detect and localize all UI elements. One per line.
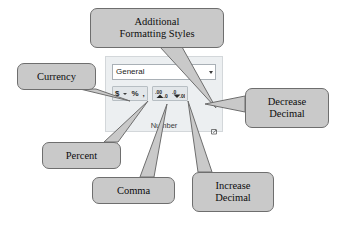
callout-line-2: Decimal <box>215 192 251 204</box>
percent-style-button[interactable]: % <box>129 87 140 100</box>
number-format-button-strip: $ % , .00 .0 <box>112 86 188 101</box>
decrease-decimal-button[interactable]: .0 .00 <box>170 87 187 100</box>
ribbon-group-label: Number <box>106 122 222 130</box>
svg-text:.0: .0 <box>172 89 176 95</box>
callout-line-1: Additional <box>135 16 180 28</box>
callout-percent: Percent <box>42 142 121 169</box>
callout-comma: Comma <box>92 177 175 204</box>
comma-style-button[interactable]: , <box>141 87 147 100</box>
chevron-down-icon <box>123 93 127 95</box>
callout-line-1: Decrease <box>268 96 306 108</box>
svg-text:.0: .0 <box>163 93 167 99</box>
callout-currency: Currency <box>17 63 96 90</box>
dialog-box-launcher-icon[interactable] <box>211 122 218 129</box>
callout-line-1: Percent <box>66 150 98 162</box>
svg-text:.00: .00 <box>155 89 162 95</box>
decimal-button-box: .00 .0 .0 .00 <box>152 86 188 101</box>
number-format-value: General <box>113 68 144 76</box>
comma-icon: , <box>143 90 145 98</box>
callout-line-1: Currency <box>37 71 76 83</box>
increase-decimal-button[interactable]: .00 .0 <box>153 87 170 100</box>
number-format-combobox[interactable]: General <box>112 64 216 80</box>
svg-text:.00: .00 <box>179 93 185 99</box>
callout-decrease-decimal: Decrease Decimal <box>245 88 329 128</box>
annotated-screenshot-canvas: General $ % , <box>0 0 340 228</box>
accounting-number-format-button[interactable]: $ <box>113 87 121 100</box>
ribbon-group-number: General $ % , <box>105 56 223 132</box>
percent-icon: % <box>131 90 138 98</box>
callout-additional-formatting-styles: Additional Formatting Styles <box>90 8 224 48</box>
decrease-decimal-icon: .0 .00 <box>172 88 185 99</box>
dollar-icon: $ <box>115 90 119 98</box>
accounting-number-format-dropdown-button[interactable] <box>121 87 129 100</box>
callout-increase-decimal: Increase Decimal <box>192 172 274 212</box>
increase-decimal-icon: .00 .0 <box>155 88 168 99</box>
callout-line-2: Formatting Styles <box>120 28 195 40</box>
callout-line-1: Increase <box>216 180 251 192</box>
currency-and-style-button-box: $ % , <box>112 86 148 101</box>
callout-line-1: Comma <box>117 185 150 197</box>
callout-line-2: Decimal <box>269 108 305 120</box>
chevron-down-icon[interactable] <box>209 71 213 74</box>
